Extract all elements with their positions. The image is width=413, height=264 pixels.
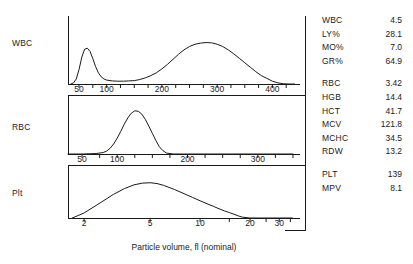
value-number: 139 xyxy=(388,168,402,182)
value-number: 41.7 xyxy=(385,105,402,119)
value-row: LY%28.1 xyxy=(322,28,402,42)
value-row: PLT139 xyxy=(322,168,402,182)
value-label: HCT xyxy=(322,105,340,119)
value-label: MPV xyxy=(322,182,341,196)
axis-tick-label: 300 xyxy=(251,154,265,164)
value-row: MPV8.1 xyxy=(322,182,402,196)
platelet-histogram-svg xyxy=(68,166,300,222)
values-column-divider-foot xyxy=(285,230,306,231)
value-label: MCV xyxy=(322,118,342,132)
value-number: 64.9 xyxy=(385,55,402,69)
value-row: MO%7.0 xyxy=(322,41,402,55)
value-label: MO% xyxy=(322,41,344,55)
value-number: 4.5 xyxy=(390,14,402,28)
axis-tick-label: 10 xyxy=(195,218,204,228)
axis-tick-label: 200 xyxy=(180,154,194,164)
platelet-histogram-plot xyxy=(68,166,300,222)
axis-tick-label: 300 xyxy=(210,84,224,94)
panel-label-plt: Plt xyxy=(12,188,23,198)
value-label: HGB xyxy=(322,91,341,105)
hematology-histogram-report: WBC RBC Plt 50100200300400 50100200300 2… xyxy=(0,0,413,264)
platelet-axis-tick-labels: 25102030 xyxy=(68,218,300,230)
panel-label-wbc: WBC xyxy=(12,38,32,48)
value-number: 13.2 xyxy=(385,145,402,159)
value-label: RBC xyxy=(322,77,341,91)
value-label: PLT xyxy=(322,168,338,182)
axis-tick-label: 50 xyxy=(74,84,83,94)
rbc-histogram-plot xyxy=(68,96,300,158)
value-number: 121.8 xyxy=(381,118,402,132)
value-number: 34.5 xyxy=(385,132,402,146)
value-label: LY% xyxy=(322,28,340,42)
value-group-platelet-indices: PLT139MPV8.1 xyxy=(322,168,402,195)
value-row: RBC3.42 xyxy=(322,77,402,91)
panel-label-rbc: RBC xyxy=(12,122,31,132)
value-number: 28.1 xyxy=(385,28,402,42)
rbc-histogram-svg xyxy=(68,96,300,158)
value-row: HGB14.4 xyxy=(322,91,402,105)
distribution-curve xyxy=(71,43,295,84)
x-axis-caption: Particle volume, fl (nominal) xyxy=(68,242,300,252)
axis-tick-label: 2 xyxy=(82,218,87,228)
axis-tick-label: 400 xyxy=(265,84,279,94)
value-row: WBC4.5 xyxy=(322,14,402,28)
axis-tick-label: 100 xyxy=(110,154,124,164)
axis-tick-label: 20 xyxy=(245,218,254,228)
value-row: GR%64.9 xyxy=(322,55,402,69)
value-group-wbc-differential: WBC4.5LY%28.1MO%7.0GR%64.9 xyxy=(322,14,402,68)
value-row: MCV121.8 xyxy=(322,118,402,132)
axis-tick-label: 100 xyxy=(100,84,114,94)
wbc-histogram-plot xyxy=(68,16,300,88)
value-row: MCHC34.5 xyxy=(322,132,402,146)
lab-values-column: WBC4.5LY%28.1MO%7.0GR%64.9RBC3.42HGB14.4… xyxy=(322,14,402,204)
value-number: 7.0 xyxy=(390,41,402,55)
value-group-red-cell-indices: RBC3.42HGB14.4HCT41.7MCV121.8MCHC34.5RDW… xyxy=(322,77,402,159)
axis-tick-label: 5 xyxy=(148,218,153,228)
value-number: 3.42 xyxy=(385,77,402,91)
wbc-histogram-svg xyxy=(68,16,300,88)
axis-tick-label: 200 xyxy=(155,84,169,94)
distribution-curve xyxy=(68,111,293,154)
value-label: RDW xyxy=(322,145,343,159)
values-column-divider xyxy=(305,16,306,231)
value-row: HCT41.7 xyxy=(322,105,402,119)
value-label: GR% xyxy=(322,55,343,69)
value-label: WBC xyxy=(322,14,342,28)
axis-tick-label: 30 xyxy=(275,218,284,228)
axis-tick-label: 50 xyxy=(77,154,86,164)
value-number: 8.1 xyxy=(390,182,402,196)
distribution-curve xyxy=(72,183,292,218)
value-number: 14.4 xyxy=(385,91,402,105)
value-row: RDW13.2 xyxy=(322,145,402,159)
value-label: MCHC xyxy=(322,132,348,146)
